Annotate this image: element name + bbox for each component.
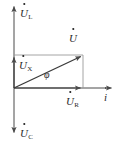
- overdot-icon: [105, 87, 107, 89]
- symbol-text: U: [20, 7, 28, 19]
- overdot-icon: [23, 3, 25, 5]
- symbol-text: U: [20, 127, 28, 139]
- overdot-icon: [72, 28, 74, 30]
- symbol-text: U: [66, 95, 74, 107]
- subscript-text: L: [28, 13, 32, 21]
- phasor-diagram-canvas: [0, 0, 120, 146]
- resistive-voltage-label: UR: [66, 96, 79, 107]
- symbol-text: U: [69, 32, 77, 44]
- symbol-text: U: [19, 59, 27, 71]
- overdot-icon: [23, 123, 25, 125]
- current-axis-label: i: [104, 92, 107, 103]
- inductive-voltage-label: UL: [20, 8, 32, 19]
- subscript-text: C: [28, 133, 33, 141]
- phasor-diagram: UL UX UC U UR i φ: [0, 0, 120, 146]
- phase-angle-label: φ: [44, 70, 50, 80]
- subscript-text: R: [74, 101, 79, 109]
- overdot-icon: [22, 55, 24, 57]
- total-voltage-label: U: [69, 33, 77, 44]
- subscript-text: X: [27, 65, 32, 73]
- capacitive-voltage-label: UC: [20, 128, 33, 139]
- symbol-text: i: [104, 91, 107, 103]
- overdot-icon: [69, 91, 71, 93]
- reactive-voltage-label: UX: [19, 60, 32, 71]
